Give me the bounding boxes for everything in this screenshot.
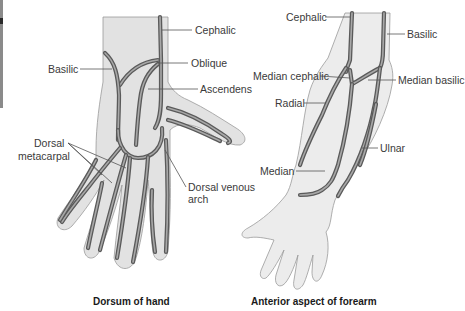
label-dorsal-metacarpal-line1: Dorsal: [34, 137, 64, 149]
label-median: Median: [260, 165, 295, 177]
label-cephalic-hand: Cephalic: [195, 24, 236, 36]
label-basilic-hand: Basilic: [48, 63, 78, 75]
label-radial: Radial: [275, 97, 305, 109]
label-dorsal-venous-arch-line1: Dorsal venous: [188, 181, 255, 193]
vein-anatomy-diagram: Cephalic Basilic Oblique Ascendens Dorsa…: [0, 0, 465, 311]
caption-anterior-forearm: Anterior aspect of forearm: [251, 296, 377, 307]
label-ascendens: Ascendens: [200, 83, 252, 95]
label-ulnar: Ulnar: [380, 142, 406, 154]
label-median-cephalic: Median cephalic: [253, 70, 329, 82]
label-basilic-arm: Basilic: [407, 28, 437, 40]
caption-dorsum-of-hand: Dorsum of hand: [93, 296, 170, 307]
label-oblique: Oblique: [191, 57, 227, 69]
label-cephalic-arm: Cephalic: [286, 11, 327, 23]
anterior-forearm-illustration: [242, 13, 393, 289]
dorsum-hand-illustration: [57, 17, 245, 269]
label-dorsal-metacarpal-line2: metacarpal: [18, 150, 70, 162]
label-dorsal-venous-arch-line2: arch: [188, 193, 209, 205]
label-median-basilic: Median basilic: [398, 74, 465, 86]
forearm-silhouette: [242, 13, 393, 289]
